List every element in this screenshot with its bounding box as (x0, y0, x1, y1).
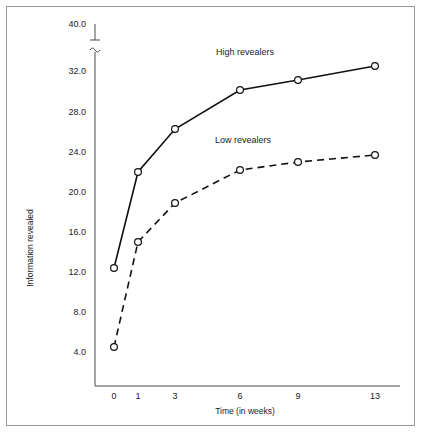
x-tick-label-9: 9 (295, 391, 300, 401)
y-axis-group: 40.0 32.0 28.0 24.0 20.0 16.0 12.0 8.0 4… (25, 19, 100, 386)
axis-break-icon (90, 40, 100, 52)
x-tick-label-6: 6 (237, 391, 242, 401)
series-low-revealers (111, 152, 379, 351)
data-point-marker (111, 344, 118, 351)
x-tick-label-13: 13 (370, 391, 380, 401)
series-high-revealers (111, 63, 379, 272)
low-revealers-markers (111, 152, 379, 351)
data-point-marker (295, 77, 302, 84)
data-point-marker (172, 126, 179, 133)
y-tick-label-16: 16.0 (68, 227, 86, 237)
data-point-marker (135, 239, 142, 246)
data-point-marker (237, 167, 244, 174)
x-tick-label-0: 0 (111, 391, 116, 401)
data-point-marker (237, 87, 244, 94)
high-revealers-line (114, 66, 375, 268)
data-point-marker (295, 159, 302, 166)
y-tick-label-40: 40.0 (68, 19, 86, 29)
data-point-marker (172, 200, 179, 207)
y-tick-label-4: 4.0 (73, 347, 86, 357)
x-axis-group: 0 1 3 6 9 13 Time (in weeks) (95, 386, 400, 416)
data-point-marker (372, 63, 379, 70)
high-revealers-label: High revealers (216, 47, 275, 57)
y-tick-label-32: 32.0 (68, 66, 86, 76)
x-axis-title: Time (in weeks) (215, 406, 275, 416)
figure-container: 40.0 32.0 28.0 24.0 20.0 16.0 12.0 8.0 4… (0, 0, 423, 448)
y-tick-label-28: 28.0 (68, 107, 86, 117)
y-tick-label-24: 24.0 (68, 147, 86, 157)
line-chart: 40.0 32.0 28.0 24.0 20.0 16.0 12.0 8.0 4… (0, 0, 423, 448)
high-revealers-markers (111, 63, 379, 272)
data-point-marker (372, 152, 379, 159)
x-tick-label-3: 3 (172, 391, 177, 401)
data-point-marker (111, 265, 118, 272)
low-revealers-label: Low revealers (215, 135, 272, 145)
low-revealers-line (114, 155, 375, 347)
y-tick-label-8: 8.0 (73, 307, 86, 317)
x-tick-label-1: 1 (135, 391, 140, 401)
data-point-marker (135, 169, 142, 176)
y-tick-label-20: 20.0 (68, 187, 86, 197)
y-axis-title: Information revealed (25, 209, 35, 287)
y-tick-label-12: 12.0 (68, 267, 86, 277)
